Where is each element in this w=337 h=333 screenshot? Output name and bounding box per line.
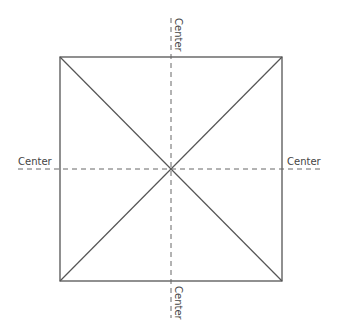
center-label-bottom: Center [173,286,184,321]
center-label-left: Center [18,156,53,167]
center-label-right: Center [287,156,322,167]
center-label-top: Center [173,18,184,53]
square-diagram: Center Center Center Center [0,0,337,333]
